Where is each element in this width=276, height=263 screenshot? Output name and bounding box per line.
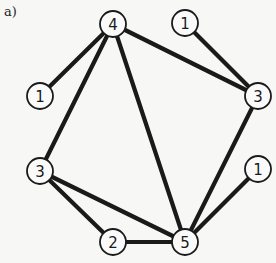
node-label: 4: [108, 16, 118, 34]
node-label: 1: [180, 15, 190, 33]
graph-diagram: 41133125: [0, 0, 276, 263]
node-n3_right: 3: [245, 83, 271, 109]
edge-n1_right-n5_bottom: [185, 169, 258, 242]
node-label: 1: [253, 161, 263, 179]
edge-n1_topright-n3_right: [185, 23, 258, 96]
edge-n4_top-n1_left: [40, 24, 113, 96]
edges-group: [40, 23, 258, 242]
edge-n3_left-n2_bottom: [40, 171, 113, 242]
node-label: 5: [180, 234, 190, 252]
node-n3_left: 3: [27, 158, 53, 184]
node-n1_right: 1: [245, 156, 271, 182]
node-n1_topright: 1: [172, 10, 198, 36]
node-label: 1: [35, 88, 45, 106]
node-label: 2: [108, 234, 118, 252]
node-label: 3: [35, 163, 45, 181]
node-n2_bottom: 2: [100, 229, 126, 255]
node-n1_left: 1: [27, 83, 53, 109]
node-n5_bottom: 5: [172, 229, 198, 255]
node-n4_top: 4: [100, 11, 126, 37]
node-label: 3: [253, 88, 263, 106]
